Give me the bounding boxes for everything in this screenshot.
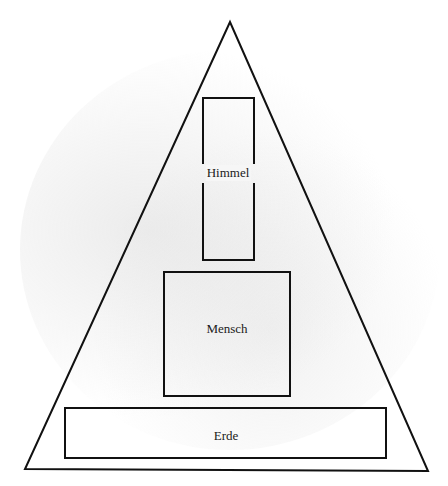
triangle-diagram: [0, 0, 448, 486]
mensch-label: Mensch: [206, 321, 247, 337]
himmel-label: Himmel: [206, 165, 251, 181]
outer-triangle: [25, 22, 428, 471]
erde-label: Erde: [214, 428, 239, 444]
